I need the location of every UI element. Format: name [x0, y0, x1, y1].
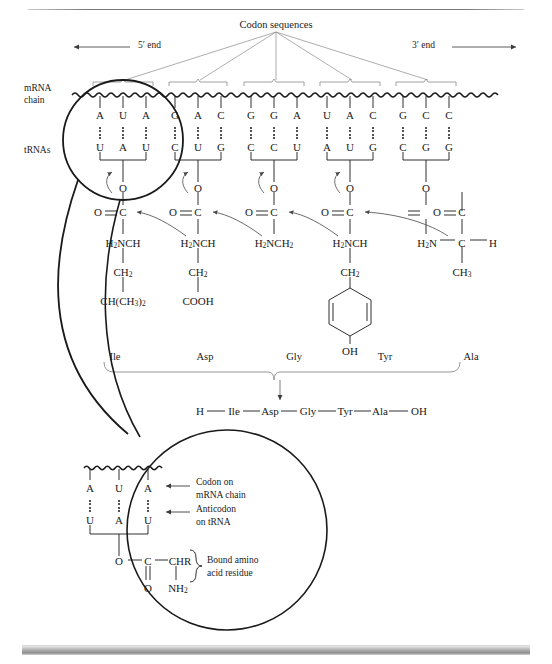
inset-hbond-dots — [147, 498, 149, 512]
anticodon-base: A — [119, 142, 127, 153]
inset-chr-group: CHR — [169, 556, 192, 567]
amino-acid-label: Gly — [286, 352, 302, 363]
callout-codon-line1: Codon on — [196, 478, 233, 488]
side-chain-ch2: CH2 — [188, 267, 207, 279]
brace-label-line1: Bound amino — [207, 556, 258, 566]
alpha-carbon: C — [458, 238, 465, 249]
ester-oxygen: O — [119, 183, 127, 194]
peptide-residue: Tyr — [337, 406, 352, 417]
hbond-dots — [425, 125, 427, 139]
mrna-base: C — [217, 110, 224, 121]
anticodon-base: U — [194, 142, 202, 153]
translation-figure: Codon sequences 5′ end 3′ end mRNA chain… — [0, 0, 552, 664]
phenol-hydroxyl: OH — [342, 346, 358, 357]
mrna-base: G — [171, 110, 179, 121]
peptide-n-terminus: H — [196, 406, 204, 417]
side-chain-ch3: CH3 — [452, 267, 471, 279]
anticodon-base: C — [270, 142, 277, 153]
hbond-dots — [296, 125, 298, 139]
mrna-base: A — [142, 110, 150, 121]
inset-hbond-dots — [118, 498, 120, 512]
hbond-dots — [174, 125, 176, 139]
carbonyl-carbon: C — [346, 207, 353, 218]
mrna-base: U — [323, 110, 331, 121]
five-prime-label: 5′ end — [138, 41, 161, 51]
inset-trna-base: U — [144, 515, 152, 526]
hbond-dots — [197, 125, 199, 139]
mrna-base: A — [346, 110, 354, 121]
mrna-base: G — [399, 110, 407, 121]
hbond-dots — [250, 125, 252, 139]
hbond-dots — [448, 125, 450, 139]
mrna-base: A — [194, 110, 202, 121]
anticodon-base: C — [171, 142, 178, 153]
amino-acid-label: Ile — [109, 352, 120, 363]
carbonyl-carbon: C — [270, 207, 277, 218]
anticodon-base: G — [217, 142, 225, 153]
inset-trna-base: A — [115, 515, 123, 526]
inset-trna-base: U — [86, 515, 94, 526]
ester-oxygen: O — [270, 183, 278, 194]
carbonyl-oxygen: O — [321, 207, 329, 218]
codon-sequences-label: Codon sequences — [239, 20, 312, 31]
anticodon-base: U — [96, 142, 104, 153]
amine-group: H2NCH — [333, 238, 368, 250]
carbonyl-oxygen: O — [169, 207, 177, 218]
trnas-label: tRNAs — [24, 146, 50, 156]
peptide-residue: Gly — [300, 406, 317, 417]
anticodon-base: G — [369, 142, 377, 153]
mrna-base: C — [445, 110, 452, 121]
anticodon-base: G — [445, 142, 453, 153]
inset-ester-oxygen: O — [115, 556, 123, 567]
inset-hbond-dots — [89, 498, 91, 512]
anticodon-base: A — [323, 142, 331, 153]
anticodon-base: U — [346, 142, 354, 153]
carbonyl-carbon: C — [458, 207, 465, 218]
peptide-residue: Ala — [372, 406, 388, 417]
hbond-dots — [326, 125, 328, 139]
hbond-dots — [145, 125, 147, 139]
side-chain-ch2: CH2 — [113, 267, 132, 279]
hbond-dots — [273, 125, 275, 139]
amine-group: H2NCH2 — [255, 238, 294, 250]
amino-acid-label: Ala — [463, 352, 478, 363]
mrna-base: A — [293, 110, 301, 121]
hbond-dots — [349, 125, 351, 139]
hbond-dots — [372, 125, 374, 139]
callout-anticodon-line1: Anticodon — [196, 505, 236, 515]
mrna-base: U — [119, 110, 127, 121]
mrna-chain-label-1: mRNA — [24, 84, 51, 94]
mrna-base: C — [422, 110, 429, 121]
carbonyl-oxygen: O — [94, 207, 102, 218]
carbonyl-oxygen: O — [433, 207, 441, 218]
amine-group: H2NCH — [181, 238, 216, 250]
mrna-base: A — [96, 110, 104, 121]
carbonyl-oxygen: O — [245, 207, 253, 218]
callout-codon-line2: mRNA chain — [196, 491, 246, 501]
three-prime-label: 3′ end — [412, 41, 435, 51]
inset-ester-carbon: C — [144, 556, 151, 567]
mrna-base: G — [270, 110, 278, 121]
hbond-dots — [122, 125, 124, 139]
side-chain-ch2: CH2 — [340, 267, 359, 279]
figure-linework — [0, 0, 552, 664]
mrna-chain-label-2: chain — [24, 96, 45, 106]
hbond-dots — [99, 125, 101, 139]
amine-group: H2N — [417, 238, 437, 250]
anticodon-base: U — [293, 142, 301, 153]
ester-oxygen: O — [194, 183, 202, 194]
anticodon-base: U — [142, 142, 150, 153]
peptide-residue: Asp — [261, 406, 279, 417]
anticodon-base: C — [399, 142, 406, 153]
mrna-base: G — [247, 110, 255, 121]
hbond-dots — [220, 125, 222, 139]
inset-carbonyl-oxygen: O — [144, 583, 152, 594]
side-chain-terminal: CH(CH3)2 — [100, 296, 145, 308]
peptide-residue: Ile — [228, 406, 240, 417]
ester-oxygen: O — [422, 183, 430, 194]
side-chain-terminal: COOH — [182, 296, 213, 307]
inset-mrna-base: U — [115, 483, 123, 494]
inset-mrna-base: A — [144, 483, 152, 494]
callout-anticodon-line2: on tRNA — [196, 518, 231, 528]
mrna-base: C — [369, 110, 376, 121]
